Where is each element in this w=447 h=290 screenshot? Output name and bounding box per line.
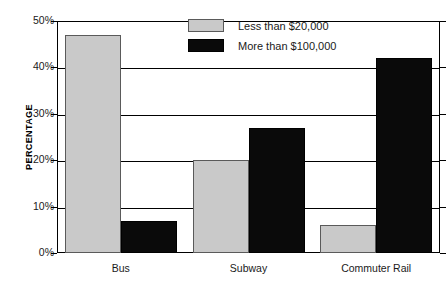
y-tick-label: 10% — [20, 201, 54, 212]
bar-commuter-rail-series-2 — [376, 58, 432, 253]
y-tick-mark-left — [51, 67, 57, 68]
y-tick-mark-left — [51, 114, 57, 115]
y-tick-label: 50% — [20, 15, 54, 26]
y-tick-label: 0% — [20, 247, 54, 258]
y-tick-mark-right — [440, 160, 446, 161]
y-tick-label: 20% — [20, 154, 54, 165]
legend-item: Less than $20,000 — [188, 17, 336, 34]
y-tick-mark-left — [51, 160, 57, 161]
y-tick-mark-right — [440, 253, 446, 254]
y-axis-tick-labels: 0%10%20%30%40%50% — [10, 0, 54, 290]
y-tick-mark-right — [440, 67, 446, 68]
legend-label: More than $100,000 — [238, 40, 336, 52]
bar-subway-series-1 — [193, 160, 249, 253]
y-tick-label: 30% — [20, 108, 54, 119]
y-tick-mark-right — [440, 21, 446, 22]
bar-subway-series-2 — [249, 128, 305, 253]
y-tick-mark-right — [440, 114, 446, 115]
y-tick-label: 40% — [20, 61, 54, 72]
chart-legend: Less than $20,000More than $100,000 — [188, 17, 336, 57]
y-tick-mark-left — [51, 253, 57, 254]
bar-chart: PERCENTAGE 0%10%20%30%40%50% Less than $… — [0, 0, 447, 290]
y-tick-mark-right — [440, 207, 446, 208]
bar-bus-series-1 — [65, 35, 121, 253]
y-tick-mark-left — [51, 207, 57, 208]
legend-label: Less than $20,000 — [238, 20, 329, 32]
bar-commuter-rail-series-1 — [320, 225, 376, 253]
x-tick-label: Commuter Rail — [341, 262, 411, 274]
legend-swatch-icon — [188, 39, 224, 52]
bar-bus-series-2 — [121, 221, 177, 253]
y-tick-mark-left — [51, 21, 57, 22]
legend-item: More than $100,000 — [188, 37, 336, 54]
legend-swatch-icon — [188, 19, 224, 32]
x-tick-label: Subway — [230, 262, 267, 274]
clipped-caption — [6, 0, 436, 2]
x-tick-label: Bus — [112, 262, 130, 274]
